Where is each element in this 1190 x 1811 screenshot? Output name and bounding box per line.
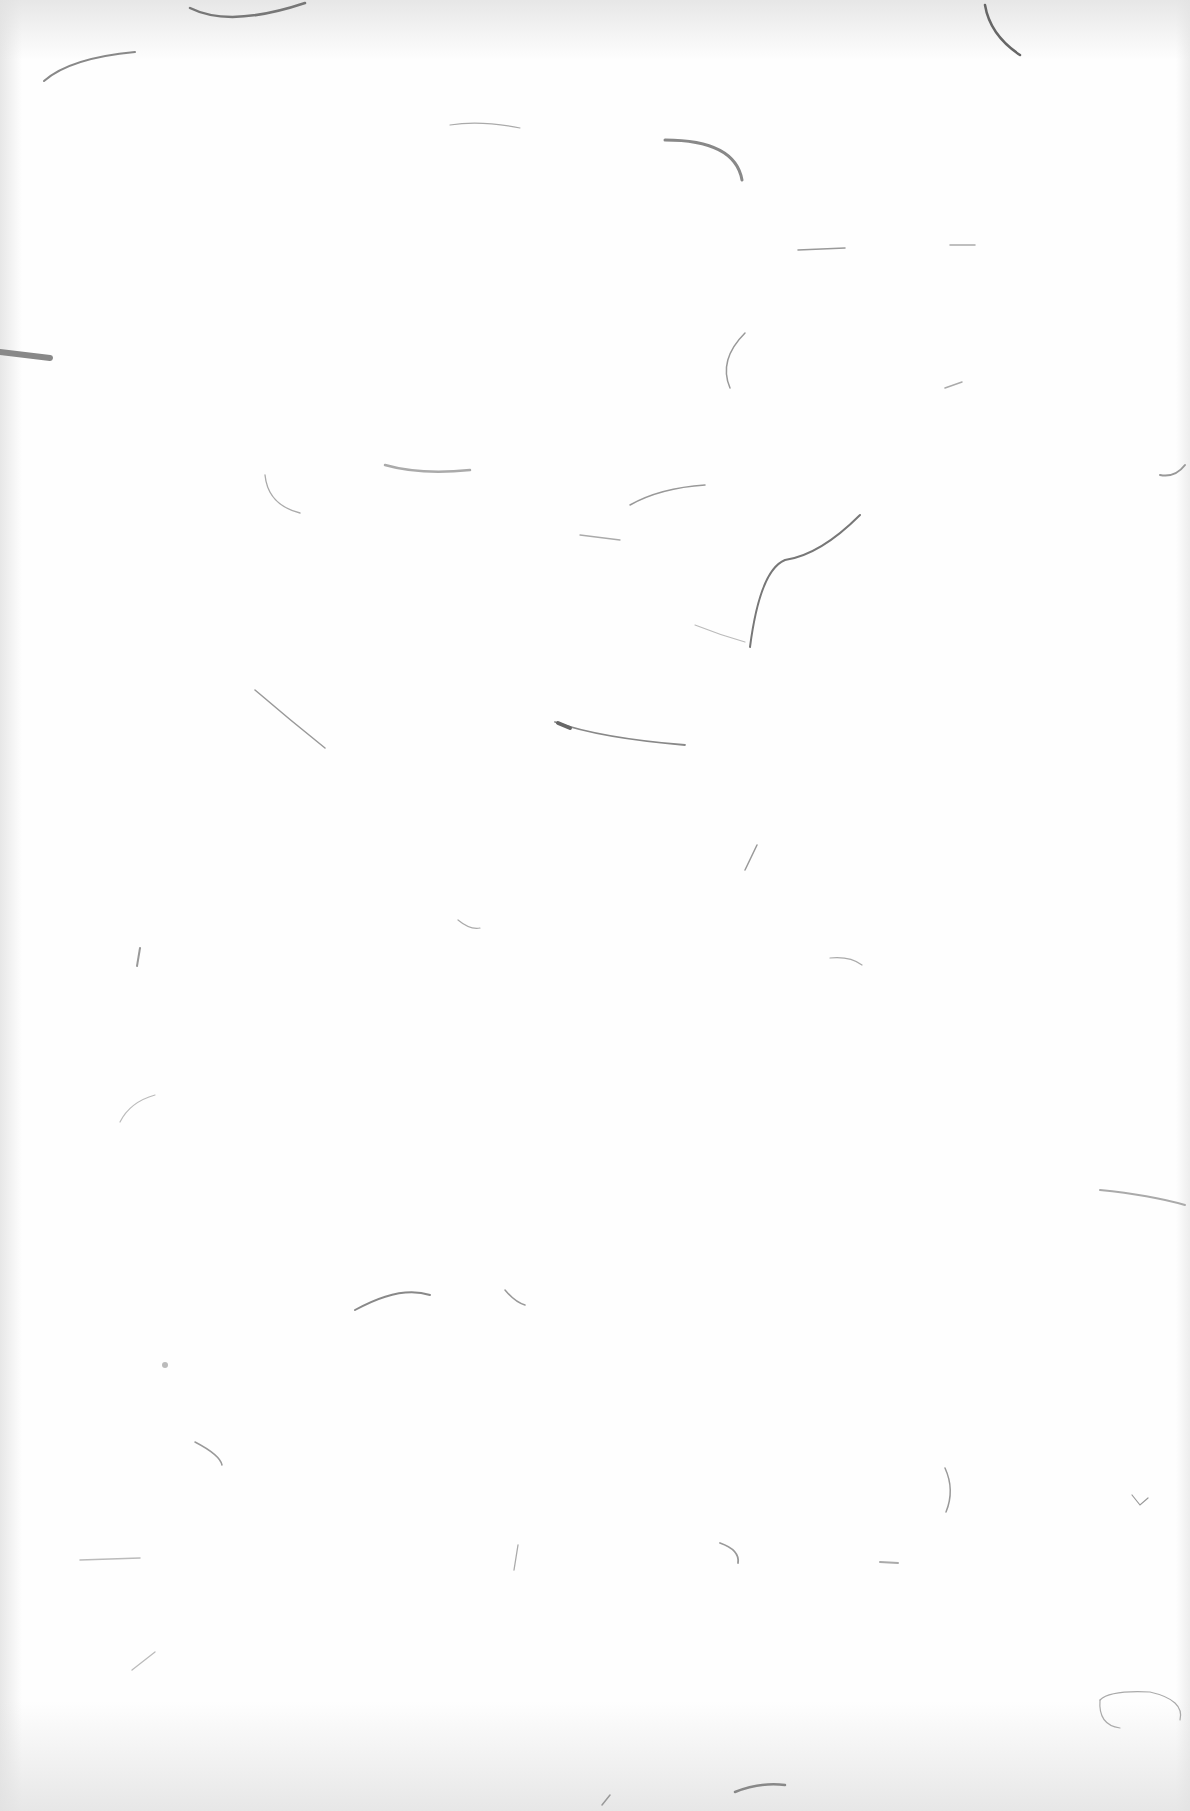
paper-sheet <box>0 0 1190 1811</box>
paper-fibers <box>0 0 1190 1811</box>
